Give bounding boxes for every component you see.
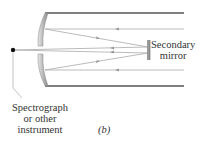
figure-label: (b) — [98, 124, 110, 135]
secondary-label-line1: Secondary — [151, 39, 195, 50]
secondary-mirror — [147, 40, 150, 60]
secondary-mirror-label: Secondary mirror — [151, 39, 195, 61]
instrument-label: Spectrograph or other instrument — [9, 102, 71, 135]
instrument-label-line3: instrument — [9, 124, 71, 135]
instrument-label-line1: Spectrograph — [9, 102, 71, 113]
secondary-label-line2: mirror — [151, 50, 195, 61]
converging-ray-lower — [13, 50, 148, 53]
converging-ray-upper — [13, 47, 148, 50]
instrument-label-line2: or other — [9, 113, 71, 124]
ray-arrow-icons — [96, 28, 119, 72]
focus-point-icon — [11, 48, 15, 52]
